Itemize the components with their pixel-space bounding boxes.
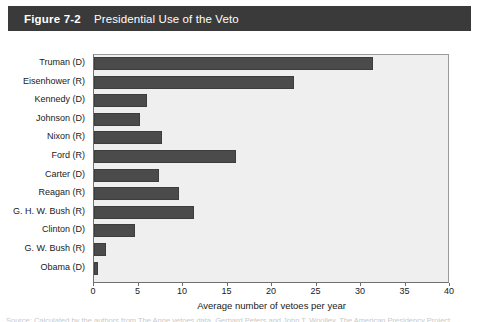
bar-row (94, 150, 236, 163)
y-axis-label: Kennedy (D) (0, 93, 89, 106)
figure-container: Figure 7-2 Presidential Use of the Veto … (0, 0, 479, 322)
figure-title: Presidential Use of the Veto (94, 13, 239, 25)
bar-row (94, 76, 294, 89)
figure-number-label: Figure 7-2 (24, 13, 81, 25)
bar (94, 224, 135, 237)
bar (94, 94, 147, 107)
bar (94, 131, 162, 144)
x-tick-label: 10 (177, 286, 187, 296)
x-tick-label: 20 (266, 286, 276, 296)
bar (94, 206, 194, 219)
bar (94, 187, 179, 200)
bar (94, 113, 140, 126)
y-axis-label: Johnson (D) (0, 112, 89, 125)
bar-row (94, 57, 373, 70)
bar-row (94, 113, 140, 126)
bar-row (94, 187, 179, 200)
y-axis-label: G. H. W. Bush (R) (0, 205, 89, 218)
x-tick-label: 25 (310, 286, 320, 296)
bar-row (94, 206, 194, 219)
bar-row (94, 94, 147, 107)
y-axis-label: G. W. Bush (R) (0, 242, 89, 255)
x-tick-label: 15 (221, 286, 231, 296)
bar-series (94, 55, 448, 282)
bar-row (94, 243, 106, 256)
x-axis-title: Average number of vetoes per year (93, 300, 450, 311)
bar-row (94, 169, 159, 182)
bar-row (94, 131, 162, 144)
bar (94, 76, 294, 89)
bar (94, 262, 98, 275)
y-axis-label: Obama (D) (0, 261, 89, 274)
bar-row (94, 262, 98, 275)
y-axis-label: Reagan (R) (0, 186, 89, 199)
bar (94, 57, 373, 70)
source-note: Source: Calculated by the authors from T… (6, 316, 473, 322)
y-axis-label: Ford (R) (0, 149, 89, 162)
figure-header-bar: Figure 7-2 Presidential Use of the Veto (8, 6, 471, 31)
y-axis-label: Carter (D) (0, 168, 89, 181)
x-tick-label: 35 (399, 286, 409, 296)
x-tick-label: 30 (355, 286, 365, 296)
x-tick-label: 40 (444, 286, 454, 296)
plot-area (93, 54, 449, 283)
bar (94, 243, 106, 256)
bar (94, 150, 236, 163)
bar-chart: Truman (D)Eisenhower (R)Kennedy (D)Johns… (0, 40, 479, 322)
y-axis-label: Eisenhower (R) (0, 75, 89, 88)
y-axis-label: Truman (D) (0, 56, 89, 69)
y-axis-label: Nixon (R) (0, 130, 89, 143)
x-tick-label: 5 (135, 286, 140, 296)
bar (94, 169, 159, 182)
x-tick-label: 0 (90, 286, 95, 296)
y-axis-label: Clinton (D) (0, 223, 89, 236)
y-axis-labels: Truman (D)Eisenhower (R)Kennedy (D)Johns… (0, 54, 89, 283)
bar-row (94, 224, 135, 237)
